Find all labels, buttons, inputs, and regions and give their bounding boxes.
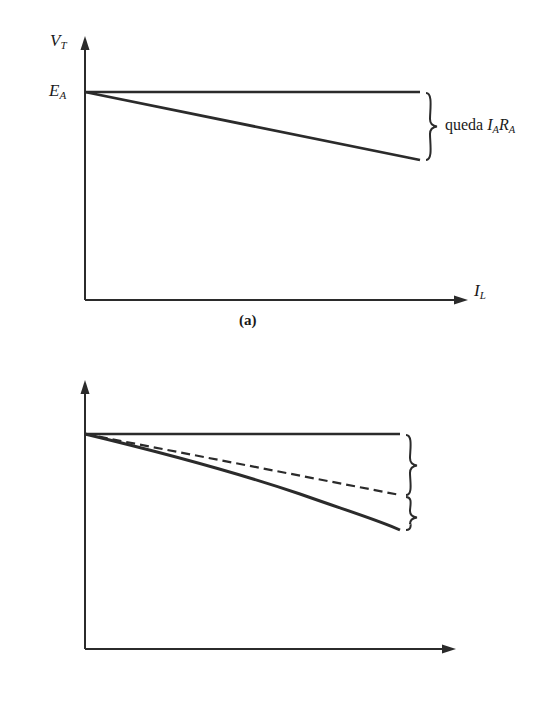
panel-a: VT EA IL queda IARA (a) <box>0 0 558 360</box>
y-axis-origin-label-a: EA <box>49 82 66 99</box>
figure-voltage-characteristics: VT EA IL queda IARA (a) VT EAn1 <box>0 0 558 708</box>
brace-iara-b <box>406 435 417 495</box>
x-axis-arrowhead-b <box>442 645 456 654</box>
curve-terminal-voltage-a <box>85 92 420 160</box>
brace-iara-a <box>426 93 437 160</box>
curve-iara-dashed-b <box>85 434 400 495</box>
panel-a-plot <box>0 0 558 360</box>
y-axis-label-a: VT <box>50 32 67 49</box>
brace-ra-b <box>406 497 417 530</box>
panel-caption-a: (a) <box>239 313 257 328</box>
brace-label-iara-a: queda IARA <box>445 117 515 133</box>
curve-terminal-voltage-b <box>85 434 400 530</box>
panel-b: VT EAn1 IL queda IARA queda RA (b) <box>0 342 558 708</box>
panel-b-plot <box>0 342 558 708</box>
x-axis-arrowhead-a <box>454 296 468 305</box>
y-axis-arrowhead-a <box>81 36 90 50</box>
y-axis-arrowhead-b <box>81 380 90 394</box>
x-axis-label-a: IL <box>474 282 486 299</box>
